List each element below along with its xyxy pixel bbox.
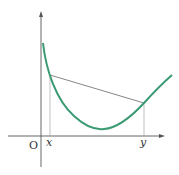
secant-chord (50, 75, 144, 103)
convexity-diagram: O x y (0, 0, 179, 175)
convex-curve (43, 43, 172, 129)
y-point-label: y (139, 136, 147, 149)
x-axis-arrow-icon (159, 134, 165, 138)
y-axis-arrow-icon (39, 11, 43, 17)
origin-label: O (29, 139, 38, 152)
x-point-label: x (46, 136, 53, 149)
